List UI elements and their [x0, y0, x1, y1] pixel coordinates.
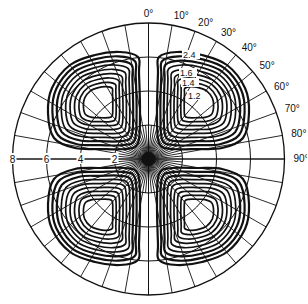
radial-label: 6 [44, 154, 50, 165]
contour-value-label: 1.2 [188, 91, 201, 101]
contour-line [83, 199, 112, 230]
contour-line [184, 199, 213, 230]
angle-label: 20° [198, 17, 213, 28]
contour-value-label: 1.4 [182, 78, 195, 88]
contour-value-label: 2.4 [183, 50, 196, 60]
lobe-upper-left [48, 52, 140, 150]
lobe-upper-right [157, 52, 249, 150]
angle-label: 40° [242, 42, 257, 53]
angle-label: 90° [294, 153, 308, 164]
radial-label: 2 [112, 154, 118, 165]
polar-diagram: 0°10°20°30°40°50°60°70°80°90° 8642 2.41.… [0, 0, 307, 304]
polar-plot-svg: 0°10°20°30°40°50°60°70°80°90° 8642 2.41.… [0, 0, 307, 304]
angle-label: 0° [144, 8, 154, 19]
center-hub [115, 125, 183, 193]
angle-label: 60° [274, 81, 289, 92]
radial-label: 8 [10, 154, 16, 165]
contour-value-label: 1.6 [180, 68, 193, 78]
lobe-lower-left [48, 168, 140, 266]
lobe-lower-right [157, 168, 249, 266]
angle-label: 50° [260, 60, 275, 71]
center-dot [142, 152, 156, 166]
angle-label: 30° [221, 27, 236, 38]
angle-label: 80° [291, 128, 306, 139]
radial-label: 4 [78, 154, 84, 165]
angle-label: 10° [174, 10, 189, 21]
angle-label: 70° [285, 103, 300, 114]
